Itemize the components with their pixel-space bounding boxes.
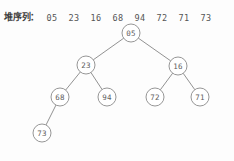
tree-node-label: 05: [126, 29, 136, 38]
tree-edge: [93, 38, 123, 60]
tree-node: 71: [191, 88, 209, 106]
tree-edge: [138, 38, 170, 61]
tree-node: 23: [77, 56, 95, 74]
binary-heap-tree: 0523166894727173: [0, 18, 234, 161]
tree-edge: [66, 72, 81, 90]
tree-edges: [46, 38, 195, 125]
tree-edge: [46, 105, 56, 125]
tree-edge: [183, 73, 195, 89]
tree-node-label: 23: [81, 61, 91, 70]
tree-node-label: 71: [195, 93, 205, 102]
tree-node: 94: [98, 88, 116, 106]
tree-edge: [91, 73, 102, 90]
tree-node-label: 94: [102, 93, 112, 102]
tree-node: 16: [169, 57, 187, 75]
tree-node: 68: [51, 88, 69, 106]
tree-node: 72: [146, 88, 164, 106]
figure-page: 堆序列：0523166894727173 0523166894727173: [0, 0, 234, 161]
tree-nodes: 0523166894727173: [33, 24, 209, 142]
tree-node: 05: [122, 24, 140, 42]
tree-svg-canvas: 0523166894727173: [0, 18, 234, 161]
tree-node-label: 68: [55, 93, 65, 102]
tree-node-label: 16: [173, 62, 183, 71]
tree-node-label: 72: [150, 93, 160, 102]
tree-node-label: 73: [37, 129, 47, 138]
tree-node: 73: [33, 124, 51, 142]
tree-edge: [160, 73, 172, 90]
